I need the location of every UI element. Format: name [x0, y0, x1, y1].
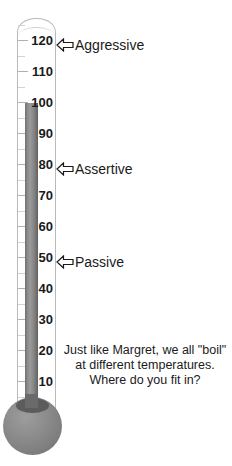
scale-label-60: 60 — [29, 220, 53, 233]
pointer-label: Aggressive — [75, 38, 144, 52]
scale-label-50: 50 — [29, 251, 53, 264]
pointer-passive: Passive — [56, 255, 124, 269]
scale-label-120: 120 — [29, 34, 53, 47]
left-arrow-icon — [56, 255, 74, 269]
scale-label-80: 80 — [29, 158, 53, 171]
pointer-aggressive: Aggressive — [56, 38, 144, 52]
pointer-label: Passive — [75, 255, 124, 269]
left-arrow-icon — [56, 162, 74, 176]
pointer-label: Assertive — [75, 162, 133, 176]
scale-label-70: 70 — [29, 189, 53, 202]
scale-label-20: 20 — [29, 344, 53, 357]
caption-line-1: Just like Margret, we all "boil" — [58, 343, 232, 358]
left-arrow-icon — [56, 38, 74, 52]
caption-text: Just like Margret, we all "boil" at diff… — [58, 343, 232, 388]
caption-line-3: Where do you fit in? — [58, 373, 232, 388]
thermometer-figure: 120110100908070605040302010 AggressiveAs… — [0, 0, 232, 466]
scale-label-100: 100 — [29, 96, 53, 109]
caption-line-2: at different temperatures. — [58, 358, 232, 373]
scale-label-10: 10 — [29, 375, 53, 388]
scale-label-110: 110 — [29, 65, 53, 78]
scale-label-30: 30 — [29, 313, 53, 326]
thermometer-bulb-neck-column — [25, 394, 38, 408]
pointer-assertive: Assertive — [56, 162, 133, 176]
scale-label-40: 40 — [29, 282, 53, 295]
scale-label-90: 90 — [29, 127, 53, 140]
